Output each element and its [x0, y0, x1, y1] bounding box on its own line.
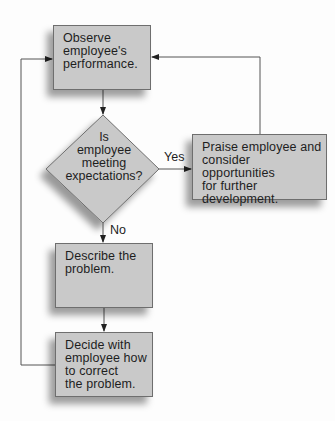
node-praise-employee: Praise employee and consider opportuniti… — [192, 134, 327, 200]
decision-text: Is employee meeting expectations? — [56, 131, 152, 183]
node-decide-correction: Decide with employee how to correct the … — [55, 332, 153, 397]
edge-label-no: No — [110, 224, 126, 237]
edge-decide-to-observe — [21, 59, 55, 365]
node-describe-problem: Describe the problem. — [55, 243, 153, 308]
node-decide-text: Decide with employee how to correct the … — [65, 339, 152, 391]
node-describe-text: Describe the problem. — [65, 250, 152, 276]
edge-label-yes: Yes — [164, 151, 184, 164]
edge-praise-to-observe — [152, 57, 260, 134]
flowchart-edges — [0, 0, 335, 421]
node-observe-performance: Observe employee's performance. — [53, 25, 151, 90]
node-praise-text: Praise employee and consider opportuniti… — [202, 141, 326, 206]
flowchart-canvas: Observe employee's performance. Is emplo… — [0, 0, 335, 421]
node-observe-text: Observe employee's performance. — [63, 32, 150, 71]
